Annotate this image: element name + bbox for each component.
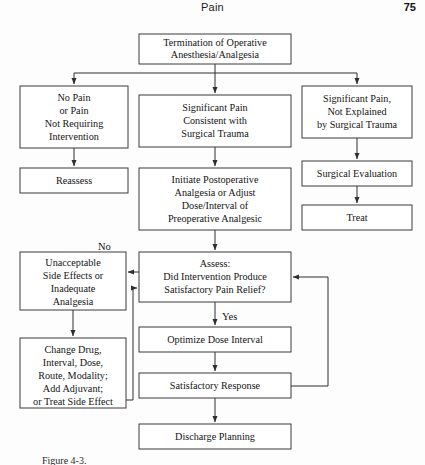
node-discharge-line-0: Discharge Planning <box>175 431 255 442</box>
node-chg-line-1: Interval, Dose, <box>43 357 103 368</box>
node-unacc-line-0: Unacceptable <box>45 257 101 268</box>
node-reassess[interactable]: Reassess <box>20 168 128 193</box>
node-surgeval-line-0: Surgical Evaluation <box>317 168 397 179</box>
node-no-pain-line-1: or Pain <box>59 105 88 116</box>
node-init-line-2: Dose/Interval of <box>182 200 249 211</box>
node-surgical-evaluation[interactable]: Surgical Evaluation <box>302 161 412 186</box>
node-assess-line-1: Did Intervention Produce <box>163 271 267 282</box>
node-init-line-1: Analgesia or Adjust <box>175 187 256 198</box>
node-chg-line-2: Route, Modality; <box>38 370 108 381</box>
node-spu-line-2: by Surgical Trauma <box>317 119 398 130</box>
node-satresp-line-0: Satisfactory Response <box>170 380 261 391</box>
figure-page: Pain 75 <box>0 0 425 465</box>
flowchart: Termination of Operative Anesthesia/Anal… <box>0 0 425 452</box>
node-no-pain-line-2: Not Requiring <box>45 118 104 129</box>
node-unacc-line-3: Analgesia <box>53 296 94 307</box>
node-assess[interactable]: Assess: Did Intervention Produce Satisfa… <box>139 252 291 302</box>
node-optimize-dose-interval[interactable]: Optimize Dose Interval <box>139 327 291 352</box>
node-no-pain[interactable]: No Pain or Pain Not Requiring Interventi… <box>20 86 128 148</box>
node-significant-pain-unexplained[interactable]: Significant Pain, Not Explained by Surgi… <box>302 86 412 138</box>
node-initiate-postoperative[interactable]: Initiate Postoperative Analgesia or Adju… <box>139 168 291 230</box>
node-unacc-line-1: Side Effects or <box>43 270 104 281</box>
node-spc-line-0: Significant Pain <box>182 102 247 113</box>
node-no-pain-line-0: No Pain <box>57 92 90 103</box>
node-significant-pain-consistent[interactable]: Significant Pain Consistent with Surgica… <box>139 95 291 147</box>
node-init-line-3: Preoperative Analgesic <box>168 213 263 224</box>
node-chg-line-3: Add Adjuvant; <box>43 383 103 394</box>
edge-label-no: No <box>98 241 111 252</box>
node-chg-line-4: or Treat Side Effect <box>33 396 113 407</box>
node-init-line-0: Initiate Postoperative <box>172 174 259 185</box>
node-spu-line-0: Significant Pain, <box>323 93 391 104</box>
node-change-drug[interactable]: Change Drug, Interval, Dose, Route, Moda… <box>20 338 126 408</box>
node-unacc-line-2: Inadequate <box>51 283 96 294</box>
node-treat[interactable]: Treat <box>302 205 412 230</box>
figure-caption: Figure 4-3. <box>42 455 422 465</box>
node-assess-line-0: Assess: <box>200 258 231 269</box>
node-no-pain-line-3: Intervention <box>49 131 99 142</box>
edge-label-yes: Yes <box>222 311 237 322</box>
node-unacceptable-side-effects[interactable]: Unacceptable Side Effects or Inadequate … <box>20 252 126 310</box>
node-opt-line-0: Optimize Dose Interval <box>167 334 263 345</box>
flowchart-nodes: Termination of Operative Anesthesia/Anal… <box>20 34 412 449</box>
node-satisfactory-response[interactable]: Satisfactory Response <box>139 373 291 398</box>
node-termination-line-0: Termination of Operative <box>163 37 267 48</box>
node-treat-line-0: Treat <box>346 212 367 223</box>
node-assess-line-2: Satisfactory Pain Relief? <box>164 284 266 295</box>
node-spc-line-1: Consistent with <box>183 115 247 126</box>
node-termination[interactable]: Termination of Operative Anesthesia/Anal… <box>139 34 291 64</box>
node-chg-line-0: Change Drug, <box>44 344 101 355</box>
node-spc-line-2: Surgical Trauma <box>181 128 249 139</box>
node-discharge-planning[interactable]: Discharge Planning <box>139 424 291 449</box>
node-termination-line-1: Anesthesia/Analgesia <box>171 49 260 60</box>
node-spu-line-1: Not Explained <box>327 106 386 117</box>
node-reassess-line-0: Reassess <box>56 175 92 186</box>
